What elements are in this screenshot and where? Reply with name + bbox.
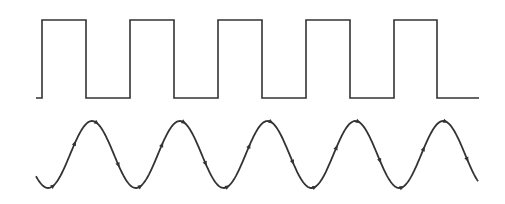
sine-wave	[36, 121, 478, 188]
arrowhead-icon	[115, 162, 121, 168]
square-wave	[36, 20, 479, 98]
arrowhead-icon	[72, 140, 78, 146]
waveform-diagram	[0, 0, 505, 204]
